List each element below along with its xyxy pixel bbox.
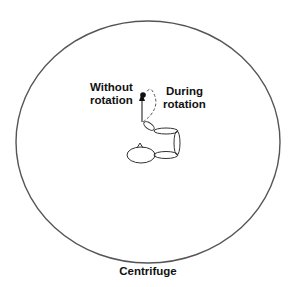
- head-ellipse: [142, 120, 155, 132]
- label-during-rotation: During rotation: [163, 85, 206, 111]
- base-ellipse: [127, 147, 155, 163]
- torso-bottom-ellipse: [154, 152, 178, 159]
- target-dot: [140, 92, 146, 98]
- label-without-line1: Without: [90, 81, 133, 94]
- label-during-line1: During: [163, 85, 206, 98]
- centrifuge-outline: [16, 21, 280, 263]
- label-without-line2: rotation: [90, 94, 133, 107]
- label-during-line2: rotation: [163, 98, 206, 111]
- torso-top-ellipse: [154, 128, 178, 134]
- label-centrifuge: Centrifuge: [0, 265, 292, 278]
- label-without-rotation: Without rotation: [90, 81, 133, 107]
- centrifuge-diagram: [0, 0, 292, 287]
- torso-side-ellipse: [174, 131, 180, 155]
- astronaut-figure: [127, 120, 180, 163]
